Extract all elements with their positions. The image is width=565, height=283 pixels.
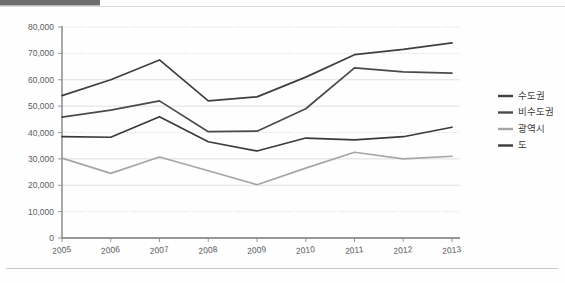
bottom-divider bbox=[6, 268, 558, 269]
screenshot-page: 010,00020,00030,00040,00050,00060,00070,… bbox=[0, 0, 565, 283]
x-tick-label: 2013 bbox=[442, 244, 462, 256]
x-tick-label: 2011 bbox=[345, 244, 364, 256]
y-tick-label: 40,000 bbox=[28, 128, 54, 138]
legend-label: 도 bbox=[518, 139, 527, 150]
y-tick-label: 30,000 bbox=[28, 154, 54, 164]
x-tick-label: 2006 bbox=[101, 244, 121, 256]
y-tick-label: 10,000 bbox=[28, 207, 54, 217]
series-line bbox=[62, 117, 452, 151]
y-axis-tick-labels: 010,00020,00030,00040,00050,00060,00070,… bbox=[28, 22, 54, 243]
x-tick-label: 2007 bbox=[149, 244, 169, 256]
y-tick-label: 80,000 bbox=[28, 22, 54, 32]
line-chart: 010,00020,00030,00040,00050,00060,00070,… bbox=[0, 8, 565, 266]
chart-canvas: 010,00020,00030,00040,00050,00060,00070,… bbox=[0, 8, 565, 266]
x-tick-label: 2008 bbox=[198, 244, 218, 256]
x-tick-label: 2012 bbox=[393, 244, 413, 256]
x-tick-label: 2005 bbox=[52, 244, 72, 256]
legend-label: 수도권 bbox=[518, 90, 545, 101]
y-tick-label: 50,000 bbox=[28, 101, 54, 111]
x-axis-tick-labels: 200520062007200820092010201120122013 bbox=[52, 244, 462, 256]
top-divider bbox=[0, 6, 565, 7]
data-series bbox=[62, 43, 452, 185]
y-tick-label: 70,000 bbox=[28, 48, 54, 58]
x-tick-label: 2010 bbox=[296, 244, 316, 256]
legend: 수도권비수도권광역시도 bbox=[498, 90, 554, 151]
series-line bbox=[62, 152, 452, 184]
legend-label: 광역시 bbox=[518, 123, 545, 134]
legend-label: 비수도권 bbox=[518, 106, 554, 117]
x-tick-label: 2009 bbox=[247, 244, 267, 256]
y-tick-label: 60,000 bbox=[28, 75, 54, 85]
y-tick-label: 20,000 bbox=[28, 180, 54, 190]
y-tick-label: 0 bbox=[49, 233, 54, 243]
series-line bbox=[62, 68, 452, 132]
